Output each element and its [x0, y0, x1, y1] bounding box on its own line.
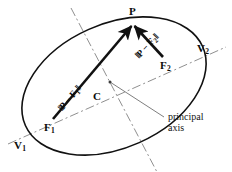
- ellipse-diagram: P F1 F2 V1 V2 C ‖P − F1‖ ‖P − F2‖ princi…: [0, 0, 232, 172]
- label-vertex-1-text: V: [14, 139, 22, 151]
- label-principal-axis-line2: axis: [168, 123, 204, 134]
- label-principal-axis-line1: principal: [168, 111, 204, 122]
- diagram-canvas: [0, 0, 232, 172]
- label-focus-2-subscript: 2: [167, 64, 171, 73]
- principal-axis-leader-line: [110, 82, 164, 117]
- label-focus-1-text: F: [44, 121, 51, 133]
- label-focus-2: F2: [160, 60, 171, 73]
- label-center-text: C: [93, 90, 101, 102]
- label-vertex-1-subscript: 1: [22, 144, 26, 153]
- principal-axis-leader-dot: [109, 81, 112, 84]
- label-focus-1-subscript: 1: [51, 126, 55, 135]
- label-point-p-text: P: [129, 5, 136, 17]
- label-vertex-2-subscript: 2: [205, 47, 209, 56]
- label-vertex-2-text: V: [197, 42, 205, 54]
- label-focus-2-text: F: [160, 59, 167, 71]
- ellipse-curve: [0, 0, 228, 172]
- label-vertex-1: V1: [14, 140, 26, 153]
- label-focus-1: F1: [44, 122, 55, 135]
- minor-axis-line: [71, 8, 157, 172]
- label-center: C: [93, 91, 101, 103]
- label-point-p: P: [129, 6, 136, 18]
- label-principal-axis: principal axis: [168, 112, 204, 133]
- label-vertex-2: V2: [197, 43, 209, 56]
